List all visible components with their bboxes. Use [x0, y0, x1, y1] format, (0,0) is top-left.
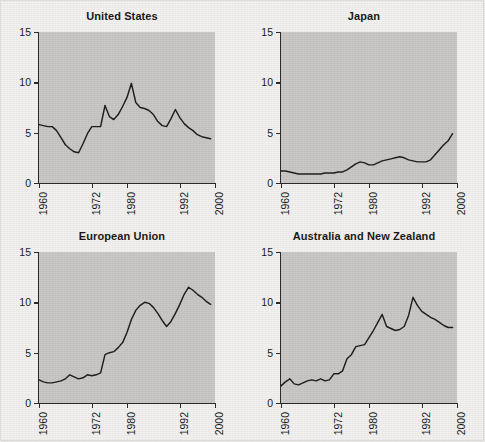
x-tick	[457, 403, 458, 408]
plot-area: 05101519601972198019922000	[281, 252, 457, 403]
x-tick-label: 1960	[279, 412, 291, 435]
y-tick-label: 10	[261, 296, 273, 308]
y-tick	[276, 133, 281, 134]
x-tick	[369, 183, 370, 188]
x-tick	[39, 403, 40, 408]
y-tick	[34, 353, 39, 354]
y-tick-label: 10	[19, 76, 31, 88]
x-tick	[92, 403, 93, 408]
plot-area: 05101519601972198019922000	[39, 252, 215, 403]
x-tick-label: 1992	[178, 192, 190, 215]
y-tick-label: 5	[25, 347, 31, 359]
x-tick-label: 2000	[455, 192, 467, 215]
x-tick	[127, 403, 128, 408]
x-tick	[334, 183, 335, 188]
panel-title: United States	[1, 10, 243, 22]
y-tick	[34, 133, 39, 134]
x-tick-label: 2000	[213, 192, 225, 215]
x-tick	[422, 183, 423, 188]
series-path	[281, 134, 453, 174]
plot-area: 05101519601972198019922000	[39, 32, 215, 183]
series-line	[39, 252, 215, 403]
y-tick-label: 10	[19, 296, 31, 308]
y-tick-label: 0	[25, 177, 31, 189]
series-path	[39, 287, 211, 383]
plot-area: 05101519601972198019922000	[281, 32, 457, 183]
panel-japan: Japan 05101519601972198019922000	[243, 1, 485, 221]
x-tick-label: 2000	[213, 412, 225, 435]
panel-european-union: European Union 0510151960197219801992200…	[1, 221, 243, 442]
y-tick-label: 15	[19, 246, 31, 258]
y-tick-label: 5	[25, 127, 31, 139]
series-path	[281, 297, 453, 386]
x-tick-label: 1980	[367, 192, 379, 215]
x-tick-label: 1992	[420, 192, 432, 215]
y-tick-label: 10	[261, 76, 273, 88]
x-tick	[369, 403, 370, 408]
x-tick	[92, 183, 93, 188]
x-tick-label: 1972	[90, 192, 102, 215]
x-tick	[180, 183, 181, 188]
panel-title: Australia and New Zealand	[243, 230, 485, 242]
series-path	[39, 83, 211, 152]
x-tick	[180, 403, 181, 408]
y-tick	[276, 82, 281, 83]
x-tick	[127, 183, 128, 188]
series-line	[39, 32, 215, 183]
x-tick	[422, 403, 423, 408]
x-tick	[39, 183, 40, 188]
panel-title: European Union	[1, 230, 243, 242]
y-tick-label: 0	[267, 177, 273, 189]
x-tick	[281, 183, 282, 188]
y-tick-label: 0	[267, 397, 273, 409]
x-tick-label: 1972	[332, 412, 344, 435]
x-tick-label: 1992	[420, 412, 432, 435]
x-tick-label: 1980	[125, 412, 137, 435]
y-tick	[34, 252, 39, 253]
y-tick-label: 0	[25, 397, 31, 409]
x-tick-label: 1960	[279, 192, 291, 215]
y-tick	[276, 302, 281, 303]
y-tick	[276, 32, 281, 33]
y-tick	[34, 82, 39, 83]
y-tick	[34, 32, 39, 33]
x-tick-label: 1980	[367, 412, 379, 435]
panel-title: Japan	[243, 10, 485, 22]
y-tick-label: 15	[19, 26, 31, 38]
panel-united-states: United States 05101519601972198019922000	[1, 1, 243, 221]
x-tick	[215, 183, 216, 188]
x-tick-label: 1992	[178, 412, 190, 435]
x-tick	[281, 403, 282, 408]
x-tick-label: 2000	[455, 412, 467, 435]
y-tick	[276, 353, 281, 354]
y-tick-label: 5	[267, 127, 273, 139]
y-tick-label: 5	[267, 347, 273, 359]
y-tick-label: 15	[261, 26, 273, 38]
series-line	[281, 252, 457, 403]
x-tick-label: 1972	[332, 192, 344, 215]
x-tick-label: 1960	[37, 412, 49, 435]
panel-grid: United States 05101519601972198019922000…	[1, 1, 485, 442]
x-tick-label: 1980	[125, 192, 137, 215]
x-tick-label: 1972	[90, 412, 102, 435]
x-tick	[215, 403, 216, 408]
series-line	[281, 32, 457, 183]
panel-australia-and-new-zealand: Australia and New Zealand 05101519601972…	[243, 221, 485, 442]
y-tick	[276, 252, 281, 253]
x-tick	[334, 403, 335, 408]
y-tick-label: 15	[261, 246, 273, 258]
x-tick	[457, 183, 458, 188]
y-tick	[34, 302, 39, 303]
x-tick-label: 1960	[37, 192, 49, 215]
